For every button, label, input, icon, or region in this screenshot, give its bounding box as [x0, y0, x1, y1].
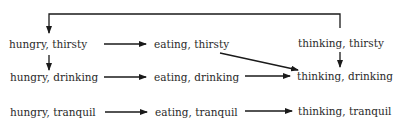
node-hungry-tranquil: hungry, tranquil	[10, 106, 96, 118]
edge-thinking-thirsty-to-hungry-thirsty	[49, 14, 340, 33]
node-thinking-drinking: thinking, drinking	[297, 70, 393, 82]
node-thinking-tranquil: thinking, tranquil	[298, 105, 391, 117]
node-eating-drinking: eating, drinking	[154, 71, 239, 83]
node-hungry-thirsty: hungry, thirsty	[9, 38, 87, 50]
edge-eating-thirsty-to-thinking-drinking	[220, 53, 298, 70]
node-eating-thirsty: eating, thirsty	[154, 38, 229, 50]
state-diagram: hungry, thirsty eating, thirsty thinking…	[0, 0, 394, 126]
node-eating-tranquil: eating, tranquil	[155, 106, 238, 118]
node-thinking-thirsty: thinking, thirsty	[298, 37, 384, 49]
node-hungry-drinking: hungry, drinking	[10, 71, 98, 83]
